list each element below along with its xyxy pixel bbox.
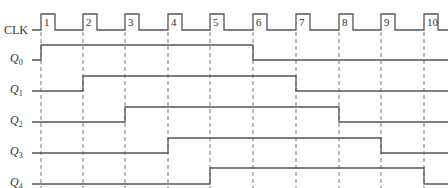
waveform-q3 (32, 138, 448, 153)
signal-q3: Q3 (10, 138, 448, 160)
pulse-number-10: 10 (427, 16, 439, 28)
pulse-number-4: 4 (171, 16, 177, 28)
waveform-q0 (32, 45, 448, 60)
signal-label-q3: Q3 (10, 144, 23, 160)
signal-q2: Q2 (10, 107, 448, 129)
signal-q4: Q4 (10, 168, 448, 188)
signal-q0: Q0 (10, 45, 448, 67)
clock-label: CLK (4, 23, 28, 37)
waveform-q2 (32, 107, 448, 122)
pulse-number-5: 5 (213, 16, 219, 28)
pulse-number-6: 6 (256, 16, 262, 28)
clock-edge-guides (41, 32, 424, 188)
pulse-number-8: 8 (342, 16, 348, 28)
signal-label-q4: Q4 (10, 175, 23, 188)
signal-label-q2: Q2 (10, 113, 23, 129)
pulse-number-1: 1 (44, 16, 50, 28)
pulse-number-3: 3 (128, 16, 134, 28)
clock-pulse-numbers: 12345678910 (44, 16, 439, 28)
output-waveforms: Q0Q1Q2Q3Q4 (10, 45, 448, 188)
pulse-number-2: 2 (86, 16, 92, 28)
waveform-q4 (32, 168, 448, 184)
signal-label-q0: Q0 (10, 51, 23, 67)
pulse-number-7: 7 (299, 16, 305, 28)
waveform-q1 (32, 76, 448, 91)
signal-q1: Q1 (10, 76, 448, 98)
signal-label-q1: Q1 (10, 82, 23, 98)
timing-diagram: CLK 12345678910 Q0Q1Q2Q3Q4 (0, 0, 448, 188)
pulse-number-9: 9 (384, 16, 390, 28)
